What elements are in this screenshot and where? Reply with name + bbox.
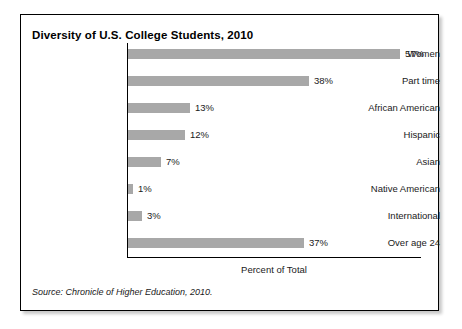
x-axis-line [127,257,421,258]
bar-value-label: 12% [190,129,209,140]
bar-value-label: 13% [195,102,214,113]
chart-figure-frame: Diversity of U.S. College Students, 2010… [20,14,439,311]
bar-value-label: 37% [309,237,328,248]
source-note: Source: Chronicle of Higher Education, 2… [32,287,213,297]
bar-row: 57% [128,46,428,62]
x-axis-label: Percent of Total [127,264,421,275]
bar [128,76,309,86]
plot-area: Women 57% Part time 38% African American… [21,15,440,312]
bar-value-label: 38% [314,75,333,86]
bar-row: 13% [128,100,428,116]
bar-row: 7% [128,154,428,170]
bar-row: 37% [128,235,428,251]
bar [128,103,190,113]
bar-value-label: 7% [166,156,180,167]
bar-value-label: 1% [138,183,152,194]
bar-value-label: 3% [147,210,161,221]
bar [128,130,185,140]
bar-value-label: 57% [405,48,424,59]
bar-row: 12% [128,127,428,143]
bar [128,157,161,167]
bar [128,211,142,221]
bar [128,49,400,59]
bar-row: 1% [128,181,428,197]
bar-row: 38% [128,73,428,89]
bar [128,238,304,248]
bar-row: 3% [128,208,428,224]
bar [128,184,133,194]
